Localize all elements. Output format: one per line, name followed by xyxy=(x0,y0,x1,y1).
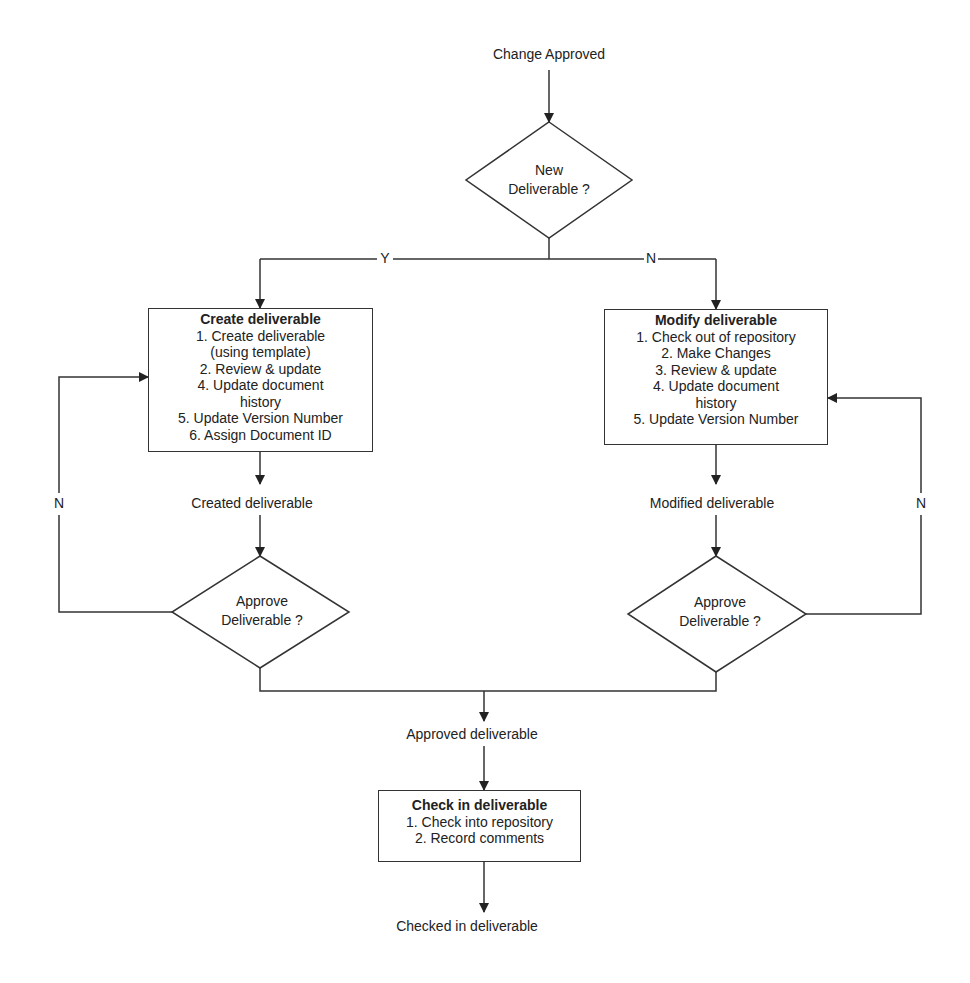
modify-step: 3. Review & update xyxy=(605,362,827,379)
modify-step: 2. Make Changes xyxy=(605,345,827,362)
modify-step: 1. Check out of repository xyxy=(605,329,827,346)
decision-line2: Deliverable ? xyxy=(679,612,761,631)
decision-line2: Deliverable ? xyxy=(221,611,303,630)
decision-new-deliverable: New Deliverable ? xyxy=(508,161,590,199)
create-step: 2. Review & update xyxy=(149,361,372,378)
modify-box-title: Modify deliverable xyxy=(605,312,827,329)
create-box-title: Create deliverable xyxy=(149,311,372,328)
checkin-step: 2. Record comments xyxy=(379,830,580,847)
modify-deliverable-box: Modify deliverable 1. Check out of repos… xyxy=(604,309,828,445)
loop-left-no-label: N xyxy=(54,495,64,512)
decision-line1: Approve xyxy=(679,593,761,612)
approve-left-decision: Approve Deliverable ? xyxy=(221,592,303,630)
approved-deliverable-label: Approved deliverable xyxy=(406,726,538,743)
modified-deliverable-label: Modified deliverable xyxy=(650,495,775,512)
modify-step: 5. Update Version Number xyxy=(605,411,827,428)
modify-step: 4. Update document xyxy=(605,378,827,395)
create-step: history xyxy=(149,394,372,411)
approve-right-decision: Approve Deliverable ? xyxy=(679,593,761,631)
created-deliverable-label: Created deliverable xyxy=(191,495,312,512)
create-step: 5. Update Version Number xyxy=(149,410,372,427)
checked-in-deliverable-label: Checked in deliverable xyxy=(396,918,538,935)
loop-right-no-label: N xyxy=(916,495,926,512)
create-step: 4. Update document xyxy=(149,377,372,394)
decision-line2: Deliverable ? xyxy=(508,180,590,199)
checkin-step: 1. Check into repository xyxy=(379,814,580,831)
start-label: Change Approved xyxy=(493,46,605,63)
check-in-deliverable-box: Check in deliverable 1. Check into repos… xyxy=(378,790,581,862)
branch-no-label: N xyxy=(644,250,658,267)
create-step: (using template) xyxy=(149,344,372,361)
decision-line1: Approve xyxy=(221,592,303,611)
create-step: 1. Create deliverable xyxy=(149,328,372,345)
modify-step: history xyxy=(605,395,827,412)
decision-line1: New xyxy=(508,161,590,180)
checkin-box-title: Check in deliverable xyxy=(379,797,580,814)
create-deliverable-box: Create deliverable 1. Create deliverable… xyxy=(148,308,373,452)
branch-yes-label: Y xyxy=(378,250,391,267)
create-step: 6. Assign Document ID xyxy=(149,427,372,444)
